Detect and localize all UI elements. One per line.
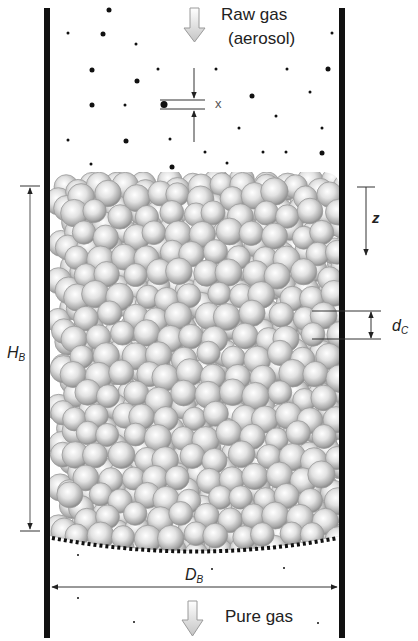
aerosol-particle [67, 139, 70, 142]
collector-sphere [326, 199, 352, 225]
collector-sphere [166, 258, 193, 285]
collector-sphere [232, 323, 258, 349]
collector-sphere [308, 461, 335, 488]
inlet-label: Raw gas [221, 6, 287, 23]
collector-sphere [208, 282, 231, 305]
bed-diameter-symbol: D [185, 566, 197, 583]
aerosol-particle [238, 127, 241, 130]
aerosol-particle [204, 151, 207, 154]
collector-sphere [179, 324, 203, 348]
aerosol-particle [90, 163, 93, 166]
collector-sphere [108, 205, 132, 229]
aerosol-particle [135, 43, 138, 46]
collector-sphere [250, 523, 274, 547]
collector-sphere [83, 443, 108, 468]
collector-sphere [310, 220, 334, 244]
aerosol-particle [133, 621, 135, 623]
collector-diameter-label: dC [392, 318, 408, 336]
aerosol-particle [135, 79, 140, 84]
collector-sphere [197, 341, 220, 364]
collector-sphere [72, 221, 95, 244]
aerosol-particle [124, 139, 129, 144]
wall-right [339, 8, 345, 638]
collector-sphere [171, 380, 197, 406]
bed-height-subscript: B [19, 352, 26, 363]
aerosol-particle [317, 622, 319, 624]
collector-sphere [109, 360, 134, 385]
collector-sphere [180, 444, 205, 469]
collector-sphere [242, 463, 268, 489]
collector-sphere [312, 425, 336, 449]
inlet-sublabel: (aerosol) [228, 30, 295, 47]
collector-sphere [301, 323, 325, 347]
aerosol-particle [124, 104, 127, 107]
aerosol-particle [320, 151, 325, 156]
collector-sphere [142, 221, 166, 245]
aerosol-particle [309, 91, 312, 94]
collector-sphere [124, 264, 147, 287]
collector-sphere [269, 303, 294, 328]
collector-sphere [108, 442, 135, 469]
aerosol-particle [226, 162, 229, 165]
collector-sphere [158, 525, 184, 551]
aerosol-particle [331, 32, 334, 35]
collector-sphere [169, 502, 193, 526]
particle-size-dimension [160, 68, 205, 142]
aerosol-particle [90, 68, 95, 73]
aerosol-particle [275, 115, 278, 118]
collector-diameter-subscript: C [401, 325, 408, 336]
collector-sphere [111, 526, 134, 549]
collector-sphere [286, 421, 310, 445]
aerosol-particle [250, 94, 255, 99]
aerosol-particle [77, 554, 79, 556]
aerosol-particle [215, 68, 218, 71]
bed-height-label: HB [7, 345, 25, 363]
collector-sphere [262, 223, 288, 249]
collector-sphere [291, 259, 317, 285]
collector-sphere [239, 300, 265, 326]
collector-sphere [254, 201, 278, 225]
collector-sphere [124, 502, 147, 525]
collector-sphere [124, 423, 147, 446]
aerosol-particle [283, 567, 285, 569]
depth-label: z [372, 210, 380, 225]
aerosol-particle [101, 32, 106, 37]
aerosol-particle [170, 165, 175, 170]
aerosol-particle [157, 68, 160, 71]
bed-diameter-subscript: B [197, 574, 204, 585]
aerosol-particle [107, 8, 112, 13]
aerosol-particle [211, 568, 213, 570]
aerosol-particle [262, 151, 265, 154]
collector-sphere [280, 522, 303, 545]
outlet-label: Pure gas [225, 608, 293, 625]
collector-sphere [203, 523, 228, 548]
aerosol-particle [67, 32, 70, 35]
bed-diameter-label: DB [185, 567, 203, 585]
aerosol-particle [77, 597, 79, 599]
aerosol-particle [285, 151, 288, 154]
collector-sphere [64, 541, 89, 566]
bed-height-symbol: H [7, 344, 19, 361]
outlet-arrow-icon [182, 601, 203, 636]
collector-sphere [301, 542, 328, 569]
aerosol-particle [169, 138, 172, 141]
aerosol-particle [90, 103, 95, 108]
collector-diameter-symbol: d [392, 317, 401, 334]
wall-left [44, 8, 50, 638]
aerosol-particle [326, 67, 331, 72]
collector-sphere [98, 301, 122, 325]
collector-sphere [57, 482, 83, 508]
inlet-arrow-icon [184, 8, 205, 42]
collector-sphere [83, 199, 106, 222]
particle-size-label: x [215, 97, 222, 110]
collector-sphere [268, 381, 292, 405]
collector-sphere [303, 361, 328, 386]
collector-sphere [239, 221, 263, 245]
collector-sphere [111, 321, 135, 345]
packed-bed-spheres [45, 167, 358, 569]
collector-sphere [297, 198, 323, 224]
aerosol-particle [321, 127, 324, 130]
collector-sphere [325, 240, 349, 264]
aerosol-particle [286, 68, 289, 71]
packed-bed-diagram [0, 0, 418, 641]
